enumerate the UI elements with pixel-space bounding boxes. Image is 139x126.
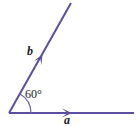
geometry-figure: b a 60° [0,0,139,126]
angle-measure-label: 60° [25,88,42,100]
vector-angle-diagram [0,0,139,126]
vector-a-label: a [64,114,70,126]
vector-b-label: b [27,45,33,57]
